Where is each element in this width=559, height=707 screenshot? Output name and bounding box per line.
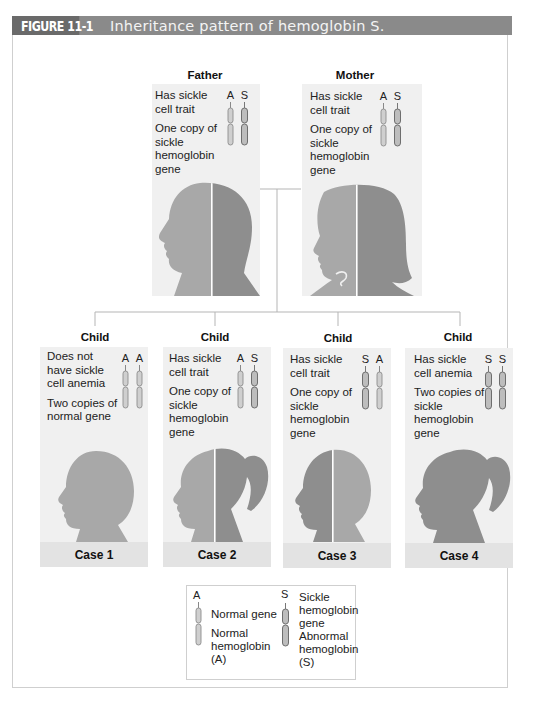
child-1-description: Does not have sickle cell anemia Two cop… <box>47 350 119 430</box>
sickle-chromosome-icon <box>393 103 402 147</box>
allele-normal: A <box>236 352 245 409</box>
legend-sickle-gene: Sickle hemoglobin gene <box>299 591 355 630</box>
child-4-status: Has sickle cell anemia <box>414 353 486 380</box>
allele-normal: A <box>226 89 235 146</box>
child-4-label: Child <box>418 331 498 343</box>
sickle-chromosome-icon <box>281 603 290 647</box>
child-2-alleles: A S <box>236 352 259 409</box>
legend: A Normal gene Normal hemoglobin (A) S Si… <box>186 585 356 680</box>
child-4-silhouette-icon <box>405 446 513 543</box>
child-3-description: Has sickle cell trait One copy of sickle… <box>290 353 362 446</box>
allele-sickle: S <box>484 353 493 410</box>
child-2-label: Child <box>175 331 255 343</box>
allele-normal: A <box>135 352 144 409</box>
case-1-label: Case 1 <box>40 542 148 567</box>
legend-sickle-letter: S <box>281 588 288 601</box>
child-4-description: Has sickle cell anemia Two copies of sic… <box>414 353 486 446</box>
case-2-label: Case 2 <box>163 542 271 567</box>
child-1-genes: Two copies of normal gene <box>47 397 119 424</box>
child-4-alleles: S S <box>484 353 507 410</box>
child-4-panel: Has sickle cell anemia Two copies of sic… <box>405 348 513 568</box>
allele-sickle: S <box>393 90 402 147</box>
sickle-chromosome-icon <box>498 366 507 410</box>
normal-chromosome-icon <box>379 103 388 147</box>
allele-sickle: S <box>250 352 259 409</box>
allele-sickle: S <box>498 353 507 410</box>
normal-chromosome-icon <box>135 365 144 409</box>
child-1-panel: Does not have sickle cell anemia Two cop… <box>40 347 148 567</box>
child-4-genes: Two copies of sickle hemoglobin gene <box>414 386 486 440</box>
father-alleles: A S <box>226 89 249 146</box>
child-3-alleles: S A <box>361 353 384 410</box>
child-1-label: Child <box>55 331 135 343</box>
allele-normal: A <box>121 352 130 409</box>
child-2-panel: Has sickle cell trait One copy of sickle… <box>163 347 271 567</box>
child-1-status: Does not have sickle cell anemia <box>47 350 119 391</box>
child-3-panel: Has sickle cell trait One copy of sickle… <box>283 348 391 568</box>
normal-chromosome-icon <box>375 366 384 410</box>
mother-panel: Has sickle cell trait One copy of sickle… <box>302 84 422 296</box>
child-3-genes: One copy of sickle hemoglobin gene <box>290 386 362 440</box>
child-3-label: Child <box>298 332 378 344</box>
child-2-status: Has sickle cell trait <box>169 352 241 379</box>
father-genes: One copy of sickle hemoglobin gene <box>155 122 227 176</box>
sickle-chromosome-icon <box>361 366 370 410</box>
normal-chromosome-icon <box>236 365 245 409</box>
sickle-chromosome-icon <box>240 102 249 146</box>
normal-chromosome-icon <box>121 365 130 409</box>
father-silhouette-icon <box>152 181 260 296</box>
mother-status: Has sickle cell trait <box>310 90 382 117</box>
child-1-silhouette-icon <box>40 447 148 542</box>
father-description: Has sickle cell trait One copy of sickle… <box>155 89 227 182</box>
child-2-silhouette-icon <box>163 445 271 542</box>
father-panel: Has sickle cell trait One copy of sickle… <box>152 84 260 296</box>
sickle-chromosome-icon <box>484 366 493 410</box>
case-3-label: Case 3 <box>283 543 391 568</box>
mother-description: Has sickle cell trait One copy of sickle… <box>310 90 382 183</box>
allele-normal: A <box>379 90 388 147</box>
allele-sickle: S <box>240 89 249 146</box>
mother-silhouette-icon <box>302 184 422 296</box>
child-3-silhouette-icon <box>283 446 391 542</box>
child-3-status: Has sickle cell trait <box>290 353 362 380</box>
mother-label: Mother <box>305 69 405 81</box>
father-status: Has sickle cell trait <box>155 89 227 116</box>
normal-chromosome-icon <box>194 602 203 646</box>
father-label: Father <box>160 69 250 81</box>
legend-normal-letter: A <box>193 589 200 602</box>
allele-normal: A <box>375 353 384 410</box>
sickle-chromosome-icon <box>250 365 259 409</box>
case-4-label: Case 4 <box>405 543 513 568</box>
mother-genes: One copy of sickle hemoglobin gene <box>310 123 382 177</box>
child-1-alleles: A A <box>121 352 144 409</box>
child-2-description: Has sickle cell trait One copy of sickle… <box>169 352 241 445</box>
mother-alleles: A S <box>379 90 402 147</box>
legend-sickle-protein: Abnormal hemoglobin (S) <box>299 630 355 669</box>
allele-sickle: S <box>361 353 370 410</box>
child-2-genes: One copy of sickle hemoglobin gene <box>169 385 241 439</box>
legend-normal-gene: Normal gene <box>211 608 281 621</box>
normal-chromosome-icon <box>226 102 235 146</box>
legend-normal-protein: Normal hemoglobin (A) <box>211 627 271 666</box>
